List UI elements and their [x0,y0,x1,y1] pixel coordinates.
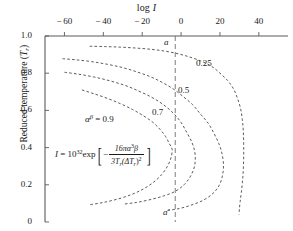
equation-fraction: 16πα3β 3Tr(ΔTr)2 [108,143,145,167]
curves [63,46,244,214]
parameter-label-alpha-beta: αβ = 0.9 [85,113,114,124]
line-tag-a-prime: a′ [163,207,169,217]
equation-den-power: 2 [139,156,142,162]
line-tag-a: a [164,37,169,47]
axes [45,32,288,222]
y-tick-label: 0.2 [6,179,32,189]
equation-denominator: 3Tr(ΔTr)2 [109,155,144,167]
equation-bracket-open: [ [97,146,101,164]
equation-den-delta-T: (ΔT [122,157,134,166]
y-tick-label: 0 [6,216,32,226]
parameter-beta: β [90,113,93,120]
equation-num-16pi-alpha: 16πα [115,144,131,153]
y-tick-label: 0.8 [6,67,32,77]
plot-area [0,0,293,231]
y-tick-label: 0.6 [6,104,32,114]
y-tick-label: 0.4 [6,142,32,152]
curve-0-7 [64,72,195,204]
x-tick-label: − 20 [127,16,157,26]
curve-label-0-25: 0.25 [196,58,212,68]
nucleation-rate-equation: I = 1032exp[− 16πα3β 3Tr(ΔTr)2 ] [55,143,152,167]
equation-exp-function: exp [83,149,96,159]
x-tick-label: 20 [205,16,235,26]
curve-label-0-5: 0.5 [178,85,189,95]
equation-I: I [55,149,58,159]
parameter-value: = 0.9 [95,114,114,124]
equation-equals: = [60,149,65,159]
x-tick-label: − 60 [49,16,79,26]
curve-0-5 [63,59,224,211]
equation-base: 10 [68,149,77,159]
chart-figure: log I Reduced temperature (Tr) − 60− 40−… [0,0,293,231]
equation-num-beta: β [134,144,138,153]
x-tick-label: 0 [166,16,196,26]
x-tick-label: − 40 [88,16,118,26]
y-tick-label: 1.0 [6,30,32,40]
equation-bracket-close: ] [146,146,150,164]
equation-numerator: 16πα3β [109,143,144,155]
curve-0-25 [90,46,244,214]
x-tick-label: 40 [244,16,274,26]
curve-label-0-7: 0.7 [152,107,163,117]
